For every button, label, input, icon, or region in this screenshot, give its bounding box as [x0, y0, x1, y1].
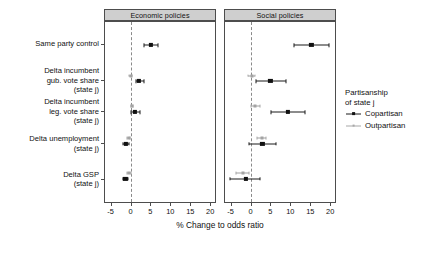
x-axis-tick	[131, 203, 132, 206]
y-axis-category-label: Delta unemployment(state j)	[29, 134, 99, 153]
estimate-point	[286, 110, 290, 114]
x-axis-tick-label: 20	[326, 207, 334, 216]
estimate-point	[309, 43, 313, 47]
interval-cap	[130, 172, 131, 175]
x-axis-tick-label: -5	[227, 207, 234, 216]
x-axis-tick	[251, 203, 252, 206]
estimate-point	[244, 177, 248, 181]
y-axis-label-line: (state j)	[44, 116, 99, 125]
legend-item-outpartisan[interactable]: Outpartisan	[345, 120, 405, 131]
y-axis-label-line: Delta GSP	[63, 170, 99, 179]
x-axis-tick-label: 10	[286, 207, 294, 216]
interval-cap	[260, 105, 261, 108]
estimate-point	[250, 74, 253, 77]
x-axis-tick-label: 0	[128, 207, 132, 216]
interval-cap	[144, 80, 145, 83]
interval-cap	[139, 111, 140, 114]
interval-cap	[304, 111, 305, 114]
x-axis-tick	[210, 203, 211, 206]
facet-strip-economic-policies: Economic policies	[104, 9, 216, 21]
y-axis-tick	[101, 143, 104, 144]
interval-cap	[285, 80, 286, 83]
estimate-point	[260, 136, 263, 139]
estimate-point	[123, 177, 127, 181]
legend-title-line-2: of state j	[345, 98, 405, 108]
y-axis-label-line: (state j)	[63, 179, 99, 188]
estimate-point	[137, 79, 141, 83]
legend-key-outpartisan-icon	[345, 120, 362, 131]
interval-cap	[265, 137, 266, 140]
interval-cap	[229, 177, 230, 180]
x-axis-tick	[190, 203, 191, 206]
y-axis-category-label: Same party control	[35, 39, 99, 48]
estimate-point	[268, 79, 272, 83]
interval-cap	[144, 44, 145, 47]
x-axis-tick	[270, 203, 271, 206]
y-axis-label-line: Delta incumbent	[44, 97, 99, 106]
x-axis-tick-label: 15	[306, 207, 314, 216]
estimate-point	[124, 142, 128, 146]
plot-panel-social-policies	[224, 21, 336, 203]
interval-cap	[128, 142, 129, 145]
y-axis-label-line: gub. vote share	[44, 75, 99, 84]
y-axis-category-label: Delta incumbentleg. vote share(state j)	[44, 97, 99, 125]
estimate-point	[133, 110, 137, 114]
y-axis-label-line: (state j)	[44, 85, 99, 94]
x-axis-tick-label: 10	[166, 207, 174, 216]
facet-strip-social-policies: Social policies	[224, 9, 336, 21]
legend-title-line-1: Partisanship	[345, 88, 405, 98]
interval-cap	[248, 74, 249, 77]
interval-cap	[254, 74, 255, 77]
y-axis-label-line: Delta unemployment	[29, 134, 99, 143]
facet-strip-label: Social policies	[256, 11, 303, 20]
interval-cap	[248, 172, 249, 175]
x-axis-tick	[170, 203, 171, 206]
interval-cap	[236, 172, 237, 175]
y-axis-label-line: Same party control	[35, 39, 99, 48]
legend: Partisanship of state j Copartisan Outpa…	[345, 88, 405, 131]
interval-cap	[276, 142, 277, 145]
legend-label-outpartisan: Outpartisan	[362, 121, 405, 130]
x-axis-tick	[290, 203, 291, 206]
x-axis-tick	[231, 203, 232, 206]
interval-cap	[128, 177, 129, 180]
x-axis-title: % Change to odds ratio	[176, 220, 264, 230]
x-axis-tick-label: 20	[206, 207, 214, 216]
y-axis-tick	[101, 44, 104, 45]
interval-cap	[260, 177, 261, 180]
legend-key-copartisan-icon	[345, 108, 362, 119]
zero-reference-line	[251, 22, 252, 202]
interval-cap	[131, 111, 132, 114]
estimate-point	[127, 172, 130, 175]
x-axis-tick-label: 5	[148, 207, 152, 216]
interval-cap	[294, 44, 295, 47]
estimate-point	[260, 142, 264, 146]
estimate-point	[254, 105, 257, 108]
legend-item-copartisan[interactable]: Copartisan	[345, 108, 405, 119]
y-axis-tick	[101, 80, 104, 81]
x-axis-tick-label: 0	[248, 207, 252, 216]
y-axis-tick	[101, 111, 104, 112]
y-axis-label-line: (state j)	[29, 143, 99, 152]
interval-cap	[250, 105, 251, 108]
y-axis-category-label: Delta GSP(state j)	[63, 170, 99, 189]
x-axis-tick	[150, 203, 151, 206]
estimate-point	[241, 172, 244, 175]
x-axis-tick-label: -5	[107, 207, 114, 216]
estimate-point	[130, 105, 133, 108]
x-axis-tick	[310, 203, 311, 206]
estimate-point	[127, 136, 130, 139]
interval-cap	[135, 80, 136, 83]
interval-cap	[257, 137, 258, 140]
x-axis-tick	[330, 203, 331, 206]
coefficient-plot-figure: Economic policies Social policies Same p…	[0, 0, 423, 257]
facet-strip-label: Economic policies	[130, 11, 189, 20]
y-axis-label-line: leg. vote share	[44, 107, 99, 116]
x-axis-tick-label: 15	[186, 207, 194, 216]
y-axis-label-line: Delta incumbent	[44, 66, 99, 75]
x-axis-tick-label: 5	[268, 207, 272, 216]
plot-panel-economic-policies	[104, 21, 216, 203]
interval-cap	[256, 80, 257, 83]
interval-cap	[249, 142, 250, 145]
legend-label-copartisan: Copartisan	[362, 109, 403, 118]
